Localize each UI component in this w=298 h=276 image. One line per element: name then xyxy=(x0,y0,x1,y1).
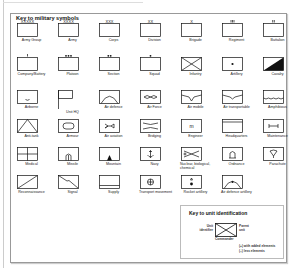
symbol-label: Bridging xyxy=(134,134,175,138)
unit-key-title: Key to unit identification xyxy=(189,210,247,216)
artillery-icon xyxy=(222,54,244,71)
svg-text:XXXX: XXXX xyxy=(63,19,74,24)
symbol-air-aviation: Air aviation xyxy=(93,116,134,146)
symbol-air-mobile: Air mobile xyxy=(175,87,216,117)
symbol-label: Brigade xyxy=(175,38,216,42)
symbol-label: Unit HQ xyxy=(52,110,93,114)
symbol-artillery: Artillery xyxy=(216,54,257,84)
symbol-squad: Squad xyxy=(134,54,175,84)
symbol-army: XXXXArmy xyxy=(52,20,93,50)
symbol-corps: XXXCorps xyxy=(93,20,134,50)
symbol-label: Amphibious xyxy=(257,105,298,109)
medical-icon xyxy=(17,144,39,161)
symbol-cavalry: Cavalry xyxy=(257,54,298,84)
air-transportable-icon xyxy=(222,87,244,104)
svg-text:XXX: XXX xyxy=(105,19,113,24)
unit-hq-icon xyxy=(58,87,80,109)
symbol-armour: Armour xyxy=(52,116,93,146)
symbol-reconnaissance: Reconnaissance xyxy=(11,172,52,202)
symbol-label: Air transportable xyxy=(216,105,257,109)
navy-icon xyxy=(140,144,162,161)
parachute-icon xyxy=(263,144,285,161)
symbol-label: Regiment xyxy=(216,38,257,42)
symbol-label: Division xyxy=(134,38,175,42)
mountain-icon xyxy=(99,144,121,161)
commander-label: Commander xyxy=(215,238,234,242)
symbol-label: Airborne xyxy=(11,105,52,109)
svg-text:XX: XX xyxy=(148,19,154,24)
symbol-parachute: Parachute xyxy=(257,144,298,174)
ordnance-icon xyxy=(222,144,244,161)
symbol-label: Mountain xyxy=(93,162,134,166)
symbol-label: Air defence artillery xyxy=(216,190,257,194)
missile-icon xyxy=(58,144,80,161)
symbol-ordnance: Ordnance xyxy=(216,144,257,174)
symbol-label: Medical xyxy=(11,162,52,166)
supply-icon xyxy=(99,172,121,189)
symbol-maintenance: Maintenance xyxy=(257,116,298,146)
headquarters-icon xyxy=(222,116,244,133)
symbol-label: Nuclear, biological, chemical xyxy=(180,162,221,170)
section-icon xyxy=(99,54,121,71)
symbol-label: Armour xyxy=(52,134,93,138)
symbol-label: Army Group xyxy=(11,38,52,42)
symbol-label: Army xyxy=(52,38,93,42)
platoon-icon xyxy=(58,54,80,71)
symbol-unit-hq: Unit HQ xyxy=(52,87,93,117)
air-defence-artillery-icon xyxy=(222,172,244,189)
symbol-platoon: Platoon xyxy=(52,54,93,84)
svg-text:m: m xyxy=(189,123,193,129)
symbol-label: Rocket artillery xyxy=(175,190,216,194)
parent-unit-label: Parent unit xyxy=(239,225,253,232)
nbc-icon xyxy=(181,144,203,161)
symbol-label: Supply xyxy=(93,190,134,194)
symbol-label: Air aviation xyxy=(93,134,134,138)
unit-key-symbol-icon xyxy=(215,223,237,237)
unit-identification-key: Key to unit identification Unit identifi… xyxy=(180,205,284,259)
symbol-anti-tank: Anti-tank xyxy=(11,116,52,146)
less-elements-note: (–) less elements xyxy=(239,250,265,254)
symbol-label: Anti-tank xyxy=(11,134,52,138)
symbol-label: Platoon xyxy=(52,72,93,76)
maintenance-icon xyxy=(263,116,285,133)
symbol-division: XXDivision xyxy=(134,20,175,50)
page-edge xyxy=(3,0,4,268)
squad-icon xyxy=(140,54,162,71)
svg-text:XXXXX: XXXXX xyxy=(21,19,35,24)
airborne-icon xyxy=(17,87,39,104)
symbol-signal: Signal xyxy=(52,172,93,202)
symbol-army-group: XXXXXArmy Group xyxy=(11,20,52,50)
anti-tank-icon xyxy=(17,116,39,133)
symbol-bridging: Bridging xyxy=(134,116,175,146)
symbol-label: Parachute xyxy=(257,162,298,166)
symbol-label: Battalion xyxy=(257,38,298,42)
brigade-icon: X xyxy=(181,20,203,37)
symbol-air-defence-artillery: Air defence artillery xyxy=(216,172,257,202)
company-icon xyxy=(17,54,39,71)
symbol-label: Artillery xyxy=(216,72,257,76)
symbol-label: Section xyxy=(93,72,134,76)
reconnaissance-icon xyxy=(17,172,39,189)
symbol-label: Reconnaissance xyxy=(11,190,52,194)
cavalry-icon xyxy=(263,54,285,71)
unit-identifier-label: Unit identifier xyxy=(195,225,213,232)
symbol-air-defence: Air defence xyxy=(93,87,134,117)
symbol-infantry: Infantry xyxy=(175,54,216,84)
infantry-icon xyxy=(181,54,203,71)
symbol-missile: Missile xyxy=(52,144,93,174)
amphibious-icon xyxy=(263,87,285,104)
symbol-label: Corps xyxy=(93,38,134,42)
signal-icon xyxy=(58,172,80,189)
symbol-airborne: Airborne xyxy=(11,87,52,117)
symbol-supply: Supply xyxy=(93,172,134,202)
air-force-icon xyxy=(140,87,162,104)
symbol-label: Transport movement xyxy=(139,190,180,194)
symbol-label: Headquarters xyxy=(216,134,257,138)
symbol-air-transportable: Air transportable xyxy=(216,87,257,117)
symbol-regiment: Regiment xyxy=(216,20,257,50)
symbol-section: Section xyxy=(93,54,134,84)
symbol-label: Cavalry xyxy=(257,72,298,76)
symbol-nuclear-biological-chemical: Nuclear, biological, chemical xyxy=(175,144,216,174)
symbol-brigade: XBrigade xyxy=(175,20,216,50)
engineer-icon: m xyxy=(181,116,203,133)
